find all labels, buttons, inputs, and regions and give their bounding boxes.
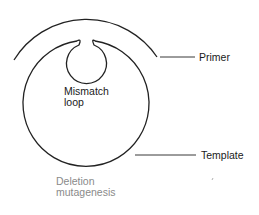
- caption-line2: mutagenesis: [56, 187, 116, 198]
- speck-mark: [212, 178, 213, 180]
- primer-label: Primer: [199, 52, 230, 63]
- template-label: Template: [201, 150, 244, 161]
- mismatch-loop-label: Mismatch loop: [64, 86, 109, 108]
- mismatch-loop-label-line2: loop: [64, 97, 109, 108]
- caption-label: Deletion mutagenesis: [56, 176, 116, 198]
- deletion-mutagenesis-diagram: [0, 0, 259, 215]
- primer-strand: [14, 19, 157, 60]
- mismatch-loop: [67, 40, 107, 83]
